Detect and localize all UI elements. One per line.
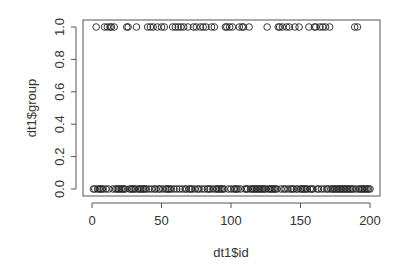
data-point — [93, 24, 100, 31]
y-tick-label: 0.0 — [52, 180, 67, 198]
data-points — [90, 24, 373, 193]
y-tick-label: 0.8 — [52, 50, 67, 68]
x-axis-label: dt1$id — [213, 245, 248, 260]
data-point — [133, 24, 140, 31]
y-axis: 0.00.20.40.60.81.0 — [52, 18, 76, 198]
data-point — [326, 24, 333, 31]
scatter-plot: 050100150200 0.00.20.40.60.81.0 dt1$id d… — [0, 0, 402, 273]
data-point — [296, 24, 303, 31]
y-tick-label: 0.6 — [52, 83, 67, 101]
x-tick-label: 200 — [359, 213, 381, 228]
y-tick-label: 0.2 — [52, 148, 67, 166]
y-tick-label: 1.0 — [52, 18, 67, 36]
data-point — [264, 24, 271, 31]
x-tick-label: 150 — [290, 213, 312, 228]
y-tick-label: 0.4 — [52, 115, 67, 133]
x-tick-label: 0 — [88, 213, 95, 228]
x-axis: 050100150200 — [88, 203, 380, 228]
x-tick-label: 100 — [220, 213, 242, 228]
y-axis-label: dt1$group — [24, 79, 39, 138]
x-tick-label: 50 — [154, 213, 168, 228]
plot-frame — [83, 20, 380, 196]
